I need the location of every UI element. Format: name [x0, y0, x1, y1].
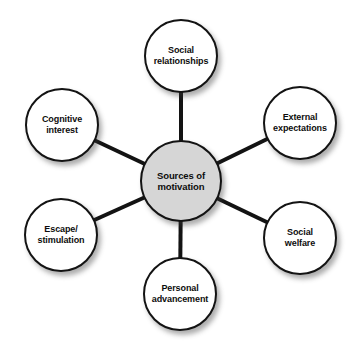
node-label-personal-advancement: Personal advancement	[148, 283, 212, 305]
node-personal-advancement: Personal advancement	[143, 257, 217, 331]
node-label-cognitive-interest: Cognitive interest	[38, 114, 86, 136]
motivation-sources-diagram: Social relationships External expectatio…	[0, 0, 361, 351]
node-escape-stimulation: Escape/ stimulation	[24, 198, 98, 272]
node-external-expectations: External expectations	[263, 86, 337, 160]
node-label-social-welfare: Social welfare	[281, 227, 319, 249]
node-sources-of-motivation: Sources of motivation	[140, 140, 222, 222]
node-label-sources-of-motivation: Sources of motivation	[153, 170, 209, 193]
node-social-relationships: Social relationships	[144, 19, 218, 93]
node-social-welfare: Social welfare	[263, 201, 337, 275]
node-cognitive-interest: Cognitive interest	[25, 88, 99, 162]
node-label-external-expectations: External expectations	[269, 112, 331, 134]
node-label-social-relationships: Social relationships	[150, 45, 213, 67]
node-label-escape-stimulation: Escape/ stimulation	[34, 224, 89, 246]
